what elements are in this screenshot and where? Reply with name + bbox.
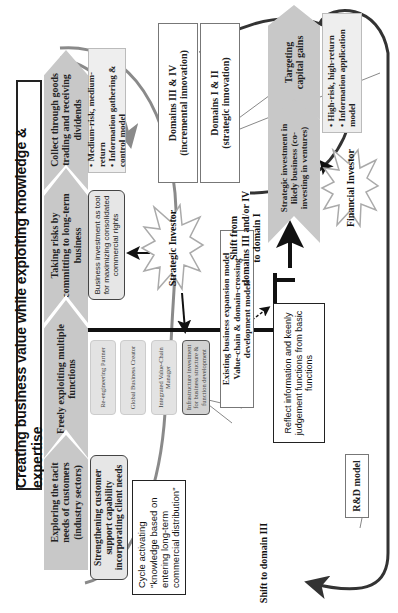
shift1-line2: domains III and/or IV: [240, 173, 252, 303]
domains-1-2-line2: (strategic innovation): [220, 57, 232, 148]
chevron-exploring-needs: Exploring the tacit needs of customers (…: [44, 435, 88, 570]
cycle-activating-box: Cycle activating "knowledge based on ent…: [132, 480, 186, 595]
domains-1-2-callout: Domains I & II (strategic innovation): [200, 23, 240, 183]
financial-investor-burst: Financial Investor: [320, 148, 380, 228]
diagram-title: Creating business value while exploiting…: [16, 80, 42, 490]
shift-to-domain-3-label: Shift to domain III: [258, 513, 274, 613]
domains-1-2-line1: Domains I & II: [209, 57, 221, 148]
reflect-functions-box: Reflect information and keenly judgement…: [273, 303, 325, 443]
shift1-line3: to domain I: [251, 173, 263, 303]
cycle-line-3: entering long-term: [159, 487, 170, 588]
diagram-canvas: Creating business value while exploiting…: [0, 0, 398, 613]
shift1-line1: Shift from: [228, 173, 240, 303]
shift-to-domain-1-label: Shift from domains III and/or IV to doma…: [228, 173, 274, 303]
function-global-business-creator: Global Business Creator: [120, 340, 146, 415]
financial-investor-label: Financial Investor: [320, 148, 380, 228]
strategic-investor-burst: Strategic Investor: [140, 203, 205, 293]
high-risk-bullet-1: • High-risk, high-return: [326, 19, 336, 127]
strategic-investor-label: Strategic Investor: [140, 203, 205, 293]
function-infrastructure-investment: Infrastructure investment for business s…: [182, 340, 210, 415]
domains-3-4-line1: Domains III & IV: [167, 50, 179, 156]
function-reengineering-partner: Re-engineering Partner: [90, 340, 116, 415]
function-value-chain-manager: Integrated Value-Chain Manager: [151, 340, 177, 415]
strengthening-support-box: Strengthening customer support capabilit…: [90, 455, 128, 580]
rd-model-callout: R&D model: [345, 454, 369, 518]
medium-risk-box: • Medium-risk, medium-return • Informati…: [88, 48, 126, 173]
high-risk-box: • High-risk, high-return • Information a…: [322, 13, 362, 133]
medium-risk-bullet-1: • Medium-risk, medium-return: [86, 54, 107, 167]
business-investment-box: Business investment as tool for maximizi…: [88, 190, 125, 300]
domains-3-4-callout: Domains III & IV (incremental innovation…: [158, 23, 198, 183]
high-risk-bullet-2: • Information application model: [337, 19, 358, 127]
domains-3-4-line2: (incremental innovation): [178, 50, 190, 156]
diagram-frame: Creating business value while exploiting…: [0, 0, 398, 613]
medium-risk-bullet-2: • Information gathering & control model: [107, 54, 128, 167]
cycle-line-1: Cycle activating: [136, 487, 147, 588]
cycle-line-4: commercial distribution": [170, 487, 181, 588]
cycle-line-2: "knowledge based on: [148, 487, 159, 588]
